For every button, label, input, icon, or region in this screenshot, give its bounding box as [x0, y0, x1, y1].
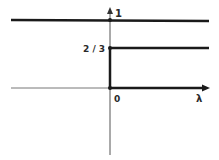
label-lambda: λ: [196, 93, 203, 104]
step-function-diagram: 1 2 / 3 0 λ: [0, 0, 219, 160]
label-one: 1: [115, 8, 122, 19]
point-one: [108, 18, 112, 22]
x-axis-arrow-icon: [202, 85, 210, 92]
label-origin: 0: [114, 94, 120, 104]
point-origin: [108, 86, 112, 90]
y-axis-arrow-icon: [107, 7, 113, 14]
label-two-thirds: 2 / 3: [83, 44, 105, 54]
point-two-thirds: [108, 46, 112, 50]
